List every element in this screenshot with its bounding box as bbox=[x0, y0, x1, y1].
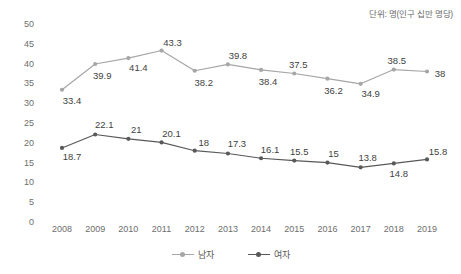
legend: 남자여자 bbox=[0, 248, 461, 261]
plot-area: 33.439.941.443.338.239.838.437.536.234.9… bbox=[40, 24, 455, 222]
data-point-marker bbox=[359, 82, 363, 86]
data-point-marker bbox=[193, 69, 197, 73]
y-axis-tick: 40 bbox=[24, 59, 34, 69]
x-axis-tick: 2010 bbox=[118, 224, 138, 234]
data-point-marker bbox=[93, 132, 97, 136]
unit-caption: 단위: 명(인구 십만 명당) bbox=[369, 7, 453, 19]
data-point-marker bbox=[226, 151, 230, 155]
y-axis-tick: 45 bbox=[24, 39, 34, 49]
data-label: 38 bbox=[435, 67, 446, 78]
data-label: 18.7 bbox=[63, 150, 82, 161]
data-point-marker bbox=[60, 146, 64, 150]
data-point-marker bbox=[226, 62, 230, 66]
y-axis-tick: 25 bbox=[24, 118, 34, 128]
legend-label: 남자 bbox=[198, 248, 214, 261]
data-point-marker bbox=[359, 165, 363, 169]
data-label: 18 bbox=[198, 136, 209, 147]
data-point-marker bbox=[93, 62, 97, 66]
y-axis-tick: 35 bbox=[24, 78, 34, 88]
data-label: 16.1 bbox=[261, 144, 280, 155]
data-label: 15 bbox=[328, 147, 339, 158]
data-label: 39.8 bbox=[229, 50, 248, 61]
data-point-marker bbox=[159, 140, 163, 144]
legend-label: 여자 bbox=[274, 248, 290, 261]
data-label: 34.9 bbox=[361, 87, 380, 98]
x-axis-tick: 2008 bbox=[52, 224, 72, 234]
data-label: 41.4 bbox=[129, 62, 148, 73]
legend-marker-icon bbox=[172, 250, 194, 259]
data-point-marker bbox=[325, 161, 329, 165]
x-axis-tick: 2011 bbox=[152, 224, 171, 234]
data-label: 39.9 bbox=[93, 69, 112, 80]
x-axis-tick: 2014 bbox=[251, 224, 271, 234]
data-label: 37.5 bbox=[289, 58, 308, 69]
data-point-marker bbox=[159, 48, 163, 52]
legend-marker-icon bbox=[248, 250, 270, 259]
x-axis-tick: 2019 bbox=[417, 224, 437, 234]
data-point-marker bbox=[193, 149, 197, 153]
x-axis-tick: 2009 bbox=[85, 224, 105, 234]
x-axis-tick: 2013 bbox=[218, 224, 238, 234]
x-axis-tick: 2012 bbox=[185, 224, 205, 234]
data-label: 38.4 bbox=[259, 75, 278, 86]
y-axis-tick: 20 bbox=[24, 138, 34, 148]
x-axis-tick: 2018 bbox=[384, 224, 404, 234]
data-label: 13.8 bbox=[358, 152, 377, 163]
data-point-marker bbox=[392, 67, 396, 71]
data-point-marker bbox=[60, 88, 64, 92]
legend-item[interactable]: 여자 bbox=[248, 248, 290, 261]
data-label: 33.4 bbox=[63, 94, 82, 105]
y-axis-tick: 10 bbox=[24, 177, 34, 187]
y-axis-tick: 5 bbox=[29, 197, 34, 207]
data-point-marker bbox=[292, 71, 296, 75]
data-label: 14.8 bbox=[390, 168, 409, 179]
data-point-marker bbox=[126, 56, 130, 60]
data-label: 38.2 bbox=[194, 76, 213, 87]
data-label: 15.8 bbox=[429, 146, 448, 157]
y-axis-tick: 30 bbox=[24, 98, 34, 108]
data-label: 21 bbox=[131, 123, 142, 134]
y-axis-tick: 50 bbox=[24, 19, 34, 29]
x-axis: 2008200920102011201220132014201520162017… bbox=[40, 224, 455, 240]
data-point-marker bbox=[259, 68, 263, 72]
y-axis-tick: 15 bbox=[24, 158, 34, 168]
y-axis: 50454035302520151050 bbox=[0, 24, 38, 222]
data-point-marker bbox=[425, 69, 429, 73]
data-point-marker bbox=[259, 156, 263, 160]
data-label: 15.5 bbox=[290, 145, 309, 156]
y-axis-tick: 0 bbox=[29, 217, 34, 227]
data-point-marker bbox=[126, 137, 130, 141]
x-axis-tick: 2016 bbox=[317, 224, 337, 234]
line-chart: 단위: 명(인구 십만 명당) 50454035302520151050 33.… bbox=[0, 0, 461, 274]
data-label: 17.3 bbox=[228, 138, 247, 149]
legend-item[interactable]: 남자 bbox=[172, 248, 214, 261]
data-point-marker bbox=[325, 77, 329, 81]
data-label: 38.5 bbox=[388, 54, 407, 65]
data-label: 20.1 bbox=[162, 128, 181, 139]
data-label: 43.3 bbox=[163, 36, 182, 47]
data-point-marker bbox=[425, 157, 429, 161]
x-axis-tick: 2015 bbox=[284, 224, 304, 234]
x-axis-tick: 2017 bbox=[351, 224, 371, 234]
data-point-marker bbox=[392, 161, 396, 165]
data-point-marker bbox=[292, 159, 296, 163]
data-label: 22.1 bbox=[95, 119, 114, 130]
data-label: 36.2 bbox=[324, 84, 343, 95]
